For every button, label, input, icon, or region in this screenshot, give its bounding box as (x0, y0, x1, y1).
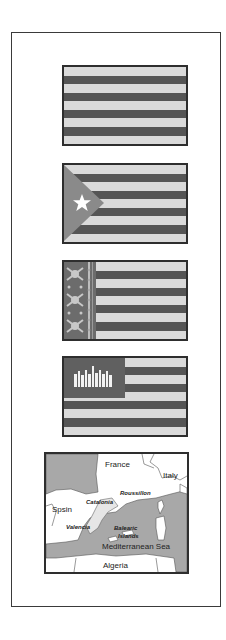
label-catalonia: Catalonia (86, 499, 113, 505)
flag-canton (64, 358, 125, 398)
flag-ornamental-band (62, 260, 188, 341)
label-balearic: Balearic (114, 525, 137, 531)
label-islands: Islands (118, 533, 139, 539)
flag-triangle-star (62, 163, 188, 244)
ornament-pattern-icon (64, 262, 96, 339)
ornamental-band (64, 262, 96, 339)
label-spain: Spsin (52, 506, 72, 514)
label-roussillon: Roussillon (120, 490, 151, 496)
label-algeria: Algeria (103, 562, 128, 570)
star-icon (72, 193, 92, 213)
label-valencia: Valencia (66, 524, 90, 530)
label-mediterranean-sea: Mediterranean Sea (102, 543, 170, 551)
label-italy: Italy (163, 472, 178, 480)
bars-emblem-icon (64, 358, 125, 398)
stripes (64, 67, 186, 144)
map-western-mediterranean: France Italy Spsin Catalonia Roussillon … (44, 452, 189, 574)
label-france: France (105, 461, 130, 469)
flag-plain-stripes (62, 65, 188, 146)
flag-canton-emblem (62, 356, 188, 437)
